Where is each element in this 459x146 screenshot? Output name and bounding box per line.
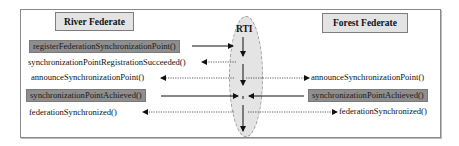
message-arrows <box>0 0 459 146</box>
